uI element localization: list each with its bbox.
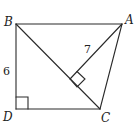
measurement-label-bd: 6 xyxy=(3,65,10,78)
vertex-label-a: A xyxy=(124,13,134,27)
geometry-diagram: B A D C 6 7 xyxy=(0,0,140,126)
right-angle-mark-d xyxy=(16,97,28,109)
vertex-label-d: D xyxy=(2,110,13,124)
right-angle-mark-altitude xyxy=(70,72,85,88)
segment-ca xyxy=(100,24,122,109)
vertex-label-c: C xyxy=(101,111,110,125)
vertex-label-b: B xyxy=(3,15,13,29)
segment-bc-diagonal xyxy=(16,24,100,109)
measurement-label-altitude: 7 xyxy=(84,43,91,56)
segment-altitude-from-a xyxy=(70,24,122,79)
